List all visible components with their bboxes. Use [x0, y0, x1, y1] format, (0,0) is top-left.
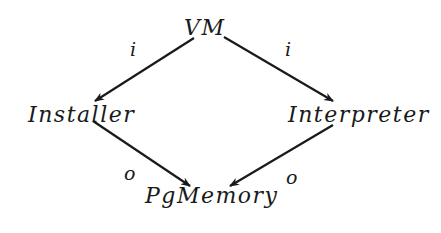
edge-label-vm-interpreter: i [285, 40, 291, 59]
node-installer: Installer [28, 104, 135, 126]
edge-label-installer-pgmemory: o [124, 164, 135, 183]
node-interpreter: Interpreter [288, 104, 430, 126]
edge-label-interpreter-pgmemory: o [286, 168, 297, 187]
diagram-canvas: VM Installer Interpreter PgMemory i i o … [0, 0, 441, 233]
edge-label-vm-installer: i [130, 40, 136, 59]
node-vm: VM [184, 17, 225, 39]
node-pgmemory: PgMemory [145, 185, 278, 207]
edge-installer-to-pgmemory [93, 121, 190, 186]
edge-vm-to-installer [95, 38, 194, 101]
edge-vm-to-interpreter [224, 37, 333, 101]
edge-interpreter-to-pgmemory [230, 125, 333, 186]
